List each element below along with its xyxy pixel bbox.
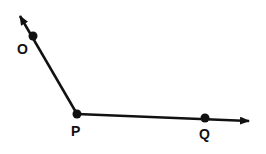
ray-po: [20, 16, 77, 114]
label-p: P: [71, 123, 80, 139]
point-o: [29, 32, 38, 41]
ray-pq: [77, 114, 249, 121]
point-p: [73, 110, 82, 119]
label-q: Q: [199, 126, 210, 142]
angle-diagram: O P Q: [0, 0, 266, 154]
point-q: [201, 114, 210, 123]
label-o: O: [17, 41, 28, 57]
